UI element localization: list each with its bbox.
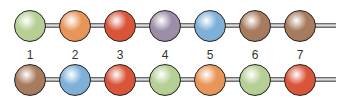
position-label: 2 [65,48,85,62]
bead-orange [59,10,91,42]
bead-brown [239,10,271,42]
bead-green [239,64,271,96]
chain-bottom [0,62,353,98]
bead-green [149,64,181,96]
bead-red [104,64,136,96]
bead-brown [284,10,316,42]
bead-orange [194,64,226,96]
chain-top [0,8,353,44]
bead-red [104,10,136,42]
bead-red [284,64,316,96]
position-label: 6 [245,48,265,62]
bead-brown [14,64,46,96]
bead-blue [59,64,91,96]
position-label: 7 [290,48,310,62]
bead-green [14,10,46,42]
position-label: 1 [20,48,40,62]
bead-blue [194,10,226,42]
position-label: 3 [110,48,130,62]
position-label: 5 [200,48,220,62]
position-label: 4 [155,48,175,62]
bead-purple [149,10,181,42]
